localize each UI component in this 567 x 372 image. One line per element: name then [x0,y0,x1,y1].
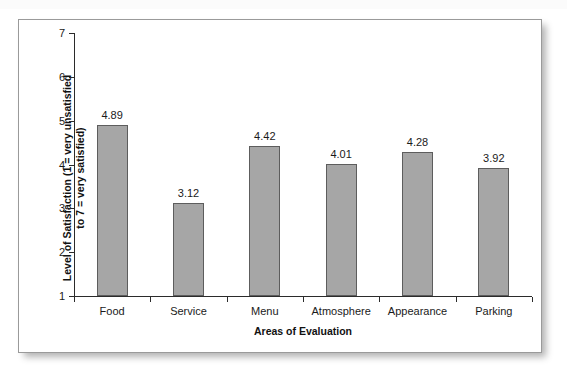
y-axis-tick: 7 [69,33,74,34]
bar-service [173,203,204,296]
y-axis-tick-mark [69,252,74,253]
y-axis-tick-label: 7 [59,27,65,39]
y-axis-tick-mark [69,121,74,122]
bar-value-label-menu: 4.42 [254,130,275,142]
bar-food [97,125,128,296]
y-axis-tick: 2 [69,252,74,253]
y-axis-tick: 4 [69,165,74,166]
figure-root: Level of Satisfaction (1 = very unsatisf… [0,0,567,372]
y-axis-tick-label: 1 [59,290,65,302]
x-axis-title: Areas of Evaluation [74,325,532,337]
bar-value-label-service: 3.12 [178,187,199,199]
y-axis-title-line-2: to 7 = very satisfied) [74,53,87,303]
x-axis-tick-mark [303,297,304,302]
y-axis-tick-mark [69,77,74,78]
bar-parking [478,168,509,296]
x-axis-label-food: Food [100,305,125,317]
y-axis-tick-mark [69,208,74,209]
bar-value-label-parking: 3.92 [483,152,504,164]
page-top-text-strip [0,0,567,9]
y-axis-line [74,33,75,297]
chart-card: Level of Satisfaction (1 = very unsatisf… [18,19,542,353]
y-axis-title-line-1: Level of Satisfaction (1 = very unsatisf… [61,53,74,303]
bar-value-label-food: 4.89 [101,109,122,121]
bar-value-label-appearance: 4.28 [407,136,428,148]
x-axis-label-menu: Menu [251,305,279,317]
x-axis-label-appearance: Appearance [388,305,447,317]
x-axis-tick-mark [74,297,75,302]
y-axis-tick-label: 4 [59,159,65,171]
x-axis-label-atmosphere: Atmosphere [312,305,371,317]
y-axis-tick-label: 3 [59,202,65,214]
y-axis-tick-label: 2 [59,246,65,258]
x-axis-label-service: Service [170,305,207,317]
x-axis-label-parking: Parking [475,305,512,317]
bar-appearance [402,152,433,296]
x-axis-tick-mark [532,297,533,302]
y-axis-tick-mark [69,33,74,34]
y-axis-tick: 5 [69,121,74,122]
bar-value-label-atmosphere: 4.01 [330,148,351,160]
y-axis-tick-label: 5 [59,115,65,127]
y-axis-tick: 3 [69,208,74,209]
bar-menu [249,146,280,296]
y-axis-tick: 6 [69,77,74,78]
y-axis-tick-mark [69,165,74,166]
y-axis-tick-label: 6 [59,71,65,83]
bar-chart-plot-area: Level of Satisfaction (1 = very unsatisf… [19,20,543,354]
bar-atmosphere [326,164,357,296]
x-axis-tick-mark [379,297,380,302]
x-axis-tick-mark [150,297,151,302]
x-axis-tick-mark [456,297,457,302]
x-axis-tick-mark [227,297,228,302]
